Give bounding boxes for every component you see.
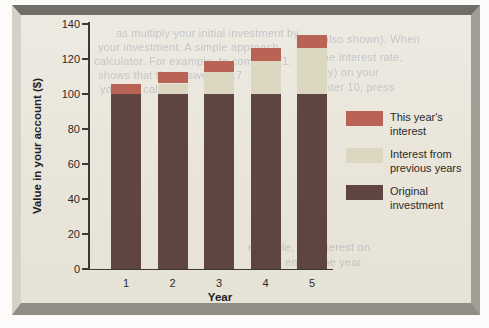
- chart-area: 020406080100120140 12345 Value in your a…: [0, 0, 489, 328]
- legend-swatch: [346, 111, 383, 126]
- y-tick-mark: [82, 58, 89, 60]
- scanned-page: as multiply your initial investment byyo…: [0, 0, 489, 328]
- y-tick-label: 140: [52, 18, 80, 30]
- y-tick-mark: [82, 128, 89, 130]
- y-tick-label: 0: [52, 263, 80, 275]
- y-tick-mark: [82, 268, 89, 270]
- x-tick-label: 5: [297, 277, 327, 289]
- x-tick-label: 4: [251, 277, 281, 289]
- x-tick-label: 2: [158, 277, 188, 289]
- legend-swatch: [346, 185, 383, 200]
- x-axis-title: Year: [190, 291, 250, 303]
- y-tick-label: 80: [52, 123, 80, 135]
- y-axis-title: Value in your account ($): [31, 51, 45, 241]
- y-tick-mark: [82, 23, 89, 25]
- x-tick-label: 3: [204, 277, 234, 289]
- y-tick-mark: [82, 163, 89, 165]
- legend-label: This year'sinterest: [390, 110, 480, 138]
- x-axis-line: [88, 269, 333, 271]
- legend-label: Originalinvestment: [390, 184, 480, 212]
- legend-label: Interest fromprevious years: [390, 147, 480, 175]
- x-tick-label: 1: [111, 277, 141, 289]
- y-tick-mark: [82, 233, 89, 235]
- y-tick-label: 120: [52, 53, 80, 65]
- y-tick-label: 60: [52, 158, 80, 170]
- y-tick-mark: [82, 93, 89, 95]
- y-tick-label: 40: [52, 193, 80, 205]
- y-tick-label: 20: [52, 228, 80, 240]
- legend-swatch: [346, 148, 383, 163]
- y-tick-label: 100: [52, 88, 80, 100]
- y-tick-mark: [82, 198, 89, 200]
